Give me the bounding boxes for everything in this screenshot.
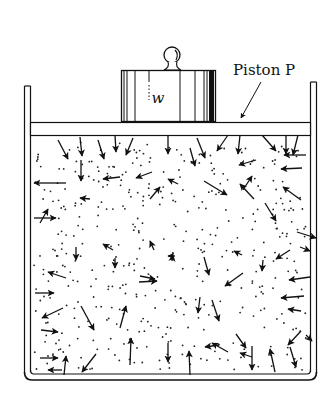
- weight: w: [122, 47, 216, 122]
- piston-pointer-arrow: [241, 82, 261, 118]
- velocity-arrow-icon: [197, 138, 205, 158]
- velocity-arrow-icon: [190, 148, 195, 166]
- velocity-arrow-icon: [58, 140, 68, 159]
- velocity-arrow-icon: [40, 209, 48, 223]
- velocity-arrow-icon: [217, 135, 228, 151]
- velocity-arrow-icon: [288, 309, 301, 311]
- weight-label: w: [152, 89, 165, 107]
- bottom-wall-outer: [25, 372, 317, 380]
- velocity-arrow-icon: [189, 351, 190, 375]
- diagram-canvas: w Piston P: [0, 0, 328, 401]
- velocity-arrow-icon: [225, 273, 243, 286]
- velocity-arrow-icon: [297, 232, 316, 238]
- bottom-wall-inner: [31, 370, 311, 374]
- velocity-arrow-icon: [204, 181, 227, 195]
- velocity-arrow-icon: [80, 198, 90, 199]
- velocity-arrow-icon: [41, 330, 58, 332]
- velocity-arrow-icon: [80, 137, 82, 156]
- molecule-velocity-arrows: [34, 135, 316, 375]
- velocity-arrow-icon: [281, 296, 304, 298]
- velocity-arrow-icon: [81, 306, 94, 330]
- velocity-arrow-icon: [103, 177, 120, 179]
- velocity-arrow-icon: [289, 277, 310, 280]
- velocity-arrow-icon: [265, 203, 276, 221]
- velocity-arrow-icon: [283, 187, 301, 200]
- velocity-arrow-icon: [270, 349, 275, 372]
- velocity-arrow-icon: [64, 356, 66, 375]
- velocity-arrow-icon: [126, 138, 133, 155]
- velocity-arrow-icon: [136, 172, 152, 178]
- gas-piston-diagram: w Piston P: [0, 0, 328, 401]
- velocity-arrow-icon: [48, 272, 66, 278]
- velocity-arrow-icon: [120, 306, 126, 328]
- velocity-arrow-icon: [288, 331, 301, 345]
- velocity-arrow-icon: [198, 297, 200, 313]
- piston: [31, 123, 311, 136]
- piston-label: Piston P: [233, 61, 295, 79]
- velocity-arrow-icon: [82, 354, 96, 372]
- velocity-arrow-icon: [212, 300, 219, 321]
- weight-block: [122, 71, 216, 122]
- velocity-arrow-icon: [168, 179, 178, 184]
- velocity-arrow-icon: [140, 276, 155, 279]
- velocity-arrow-icon: [290, 347, 296, 367]
- velocity-arrow-icon: [240, 353, 252, 357]
- velocity-arrow-icon: [262, 260, 263, 271]
- velocity-arrow-icon: [150, 241, 154, 250]
- velocity-arrow-icon: [150, 187, 160, 199]
- velocity-arrow-icon: [139, 281, 157, 282]
- velocity-arrow-icon: [130, 338, 131, 365]
- velocity-arrow-icon: [262, 135, 276, 151]
- velocity-arrow-icon: [115, 135, 116, 152]
- velocity-arrow-icon: [276, 250, 290, 259]
- velocity-arrow-icon: [240, 184, 254, 199]
- velocity-arrow-icon: [234, 251, 242, 255]
- velocity-arrow-icon: [293, 135, 298, 155]
- velocity-arrow-icon: [204, 257, 209, 275]
- velocity-arrow-icon: [243, 176, 252, 190]
- velocity-arrow-icon: [236, 334, 246, 348]
- velocity-arrow-icon: [300, 247, 310, 251]
- velocity-arrow-icon: [281, 168, 302, 169]
- velocity-arrow-icon: [42, 308, 63, 318]
- velocity-arrow-icon: [98, 140, 104, 159]
- velocity-arrow-icon: [238, 135, 240, 154]
